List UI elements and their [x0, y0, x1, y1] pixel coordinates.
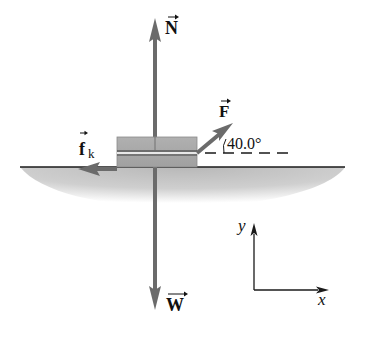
friction-force-label: f k [79, 131, 95, 161]
block [117, 137, 197, 167]
svg-text:f: f [79, 139, 86, 159]
svg-text:W: W [166, 295, 184, 315]
weight-force-label: W [166, 292, 188, 316]
applied-force-label: F [219, 99, 231, 122]
svg-text:F: F [219, 102, 229, 121]
normal-force-label: N [165, 15, 179, 39]
coordinate-axes: y x [236, 216, 329, 309]
angle-arc [223, 139, 226, 153]
free-body-diagram: N F 40.0° f k W y x [0, 0, 368, 340]
svg-text:k: k [88, 146, 95, 161]
applied-force-shaft [197, 132, 222, 153]
ground-surface [20, 167, 345, 207]
angle-label: 40.0° [227, 135, 261, 152]
y-axis-label: y [236, 216, 246, 235]
svg-text:N: N [165, 18, 178, 38]
x-axis-label: x [317, 290, 326, 309]
